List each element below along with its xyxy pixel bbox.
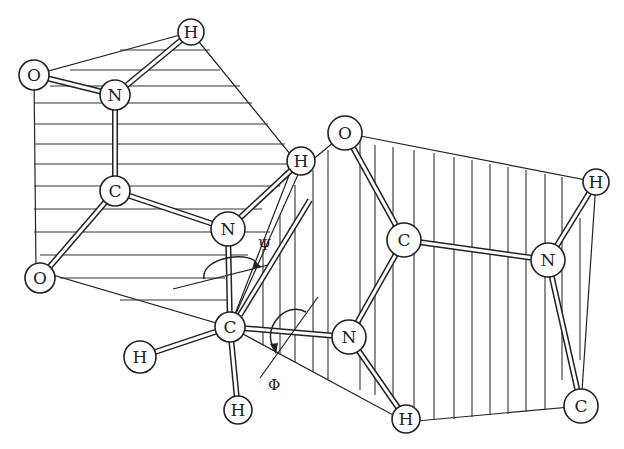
atom-h5: H	[392, 405, 420, 433]
atom-n1: N	[100, 80, 130, 110]
svg-text:O: O	[27, 65, 41, 85]
svg-text:N: N	[221, 219, 236, 239]
psi-label: Ψ	[258, 236, 271, 254]
phi-rotation: Φ	[260, 297, 318, 394]
atom-h2: H	[287, 147, 315, 175]
atom-h3: H	[124, 341, 156, 373]
svg-text:H: H	[133, 347, 148, 367]
atom-o1: O	[19, 60, 49, 90]
bond-c1-o2	[40, 191, 115, 278]
atom-c2: C	[387, 223, 421, 257]
svg-text:C: C	[397, 230, 410, 250]
svg-text:C: C	[574, 396, 587, 416]
atom-o3: O	[328, 116, 362, 150]
left-amide-plane	[34, 32, 295, 327]
svg-text:N: N	[342, 327, 357, 347]
svg-text:O: O	[338, 123, 352, 143]
atom-n3: N	[332, 320, 366, 354]
bond-ca-n3	[230, 327, 349, 337]
atom-o2: O	[25, 263, 55, 293]
atom-c1: C	[100, 176, 130, 206]
phi-label: Φ	[268, 376, 280, 394]
svg-text:H: H	[294, 151, 309, 171]
bond-n4-c3	[548, 260, 581, 406]
bond-c1-n2	[115, 191, 228, 229]
svg-text:H: H	[184, 22, 199, 42]
svg-text:N: N	[541, 250, 556, 270]
atoms: H O N C O H N C H H O C N H N H C	[19, 19, 609, 433]
atom-h6: H	[583, 169, 609, 195]
svg-text:H: H	[399, 409, 414, 429]
svg-text:C: C	[223, 317, 236, 337]
svg-text:O: O	[33, 268, 47, 288]
atom-n2: N	[211, 212, 245, 246]
svg-text:N: N	[108, 85, 123, 105]
svg-text:H: H	[231, 400, 246, 420]
peptide-diagram: Ψ Φ H O N C O H N C H H O C N H N H C	[0, 0, 624, 449]
atom-n4: N	[531, 243, 565, 277]
bond-ca-axis	[240, 200, 310, 315]
atom-c3: C	[564, 389, 598, 423]
svg-text:C: C	[108, 181, 121, 201]
atom-h4: H	[224, 396, 252, 424]
svg-text:H: H	[589, 172, 604, 192]
atom-h1: H	[178, 19, 204, 45]
atom-calpha: C	[215, 312, 245, 342]
